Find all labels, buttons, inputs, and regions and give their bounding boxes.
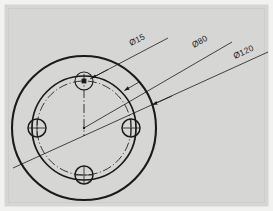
paper-background <box>0 0 273 211</box>
drawing-canvas: Ø15 Ø80 Ø120 <box>0 0 273 211</box>
hole-bottom <box>75 166 93 184</box>
center-mark <box>83 127 85 129</box>
technical-drawing-svg: Ø15 Ø80 Ø120 <box>0 0 273 211</box>
hole-left <box>28 119 46 137</box>
hole-right <box>122 119 140 137</box>
